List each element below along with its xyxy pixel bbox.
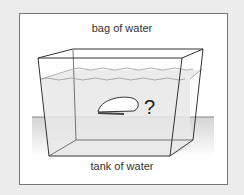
top-label: bag of water xyxy=(0,22,244,34)
question-mark: ? xyxy=(144,96,155,119)
bottom-label: tank of water xyxy=(0,160,244,172)
